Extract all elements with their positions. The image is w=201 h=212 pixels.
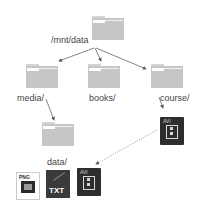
pen-stroke-icon xyxy=(53,172,65,181)
file-png[interactable]: PNG xyxy=(16,172,40,200)
file-type-label: AVI xyxy=(80,169,88,175)
file-txt[interactable]: TXT xyxy=(46,170,70,198)
folder-icon xyxy=(42,122,74,146)
film-strip-icon xyxy=(83,176,95,190)
edge-media-data xyxy=(46,99,54,120)
label-data: data/ xyxy=(47,157,67,167)
file-avi-course[interactable]: AVI xyxy=(160,117,184,145)
label-root: /mnt/data xyxy=(51,35,89,45)
edge-course-avi-to-data-avi xyxy=(96,130,157,164)
file-type-label: AVI xyxy=(163,118,171,124)
image-icon xyxy=(21,181,35,193)
label-books: books/ xyxy=(89,93,116,103)
file-avi-data[interactable]: AVI xyxy=(77,168,101,196)
edge-root-media xyxy=(59,48,94,61)
folder-icon xyxy=(88,64,120,88)
film-strip-icon xyxy=(166,125,178,139)
folder-icon xyxy=(26,64,58,88)
folder-icon xyxy=(151,64,183,88)
label-course: course/ xyxy=(160,93,190,103)
label-media: media/ xyxy=(17,93,44,103)
file-type-label: PNG xyxy=(19,174,30,180)
file-type-label: TXT xyxy=(49,186,64,195)
folder-icon xyxy=(92,16,124,40)
